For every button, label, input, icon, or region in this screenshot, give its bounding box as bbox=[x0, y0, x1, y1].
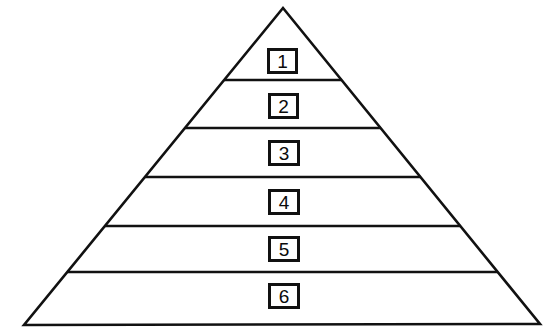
pyramid-level-box-4: 4 bbox=[268, 189, 300, 215]
pyramid-level-box-5: 5 bbox=[268, 236, 300, 262]
pyramid-level-label-3: 3 bbox=[279, 143, 290, 162]
pyramid-level-label-6: 6 bbox=[279, 286, 290, 305]
pyramid-level-box-3: 3 bbox=[268, 140, 300, 166]
pyramid-level-label-2: 2 bbox=[278, 96, 289, 115]
pyramid-level-label-5: 5 bbox=[279, 239, 290, 258]
pyramid-level-label-4: 4 bbox=[279, 192, 290, 211]
pyramid-level-label-1: 1 bbox=[277, 51, 288, 70]
pyramid-level-box-6: 6 bbox=[268, 283, 300, 309]
pyramid-level-box-2: 2 bbox=[268, 93, 299, 119]
pyramid-level-box-1: 1 bbox=[267, 48, 298, 74]
